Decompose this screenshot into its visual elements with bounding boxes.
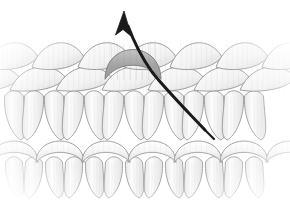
figure-canvas: Knitted fabric loop structure with unrav… — [0, 0, 290, 203]
knit-fabric-diagram: Knitted fabric loop structure with unrav… — [0, 0, 290, 203]
